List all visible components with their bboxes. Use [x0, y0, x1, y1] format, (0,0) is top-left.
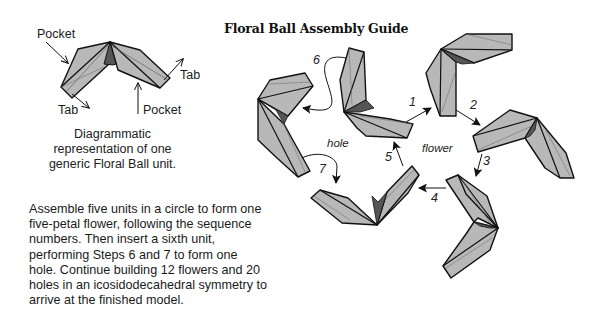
- unit-f: [258, 73, 313, 177]
- step-3-arrow: [476, 154, 482, 176]
- step-7-label: 7: [319, 162, 326, 176]
- unit-b: [426, 34, 512, 116]
- flower-label: flower: [422, 142, 453, 154]
- unit-d: [443, 175, 498, 278]
- step-2-arrow: [456, 110, 480, 125]
- step-4-label: 4: [431, 191, 438, 205]
- step-5-arrow: [394, 142, 403, 166]
- hole-label: hole: [327, 137, 349, 149]
- assembly-graphic: [0, 0, 592, 315]
- step-1-label: 1: [409, 95, 416, 109]
- step-2-label: 2: [470, 98, 477, 112]
- step-5-label: 5: [385, 150, 392, 164]
- unit-a: [340, 48, 413, 138]
- step-3-label: 3: [483, 154, 490, 168]
- step-1-arrow: [406, 108, 431, 122]
- step-6-label: 6: [313, 53, 320, 67]
- unit-e: [311, 166, 419, 225]
